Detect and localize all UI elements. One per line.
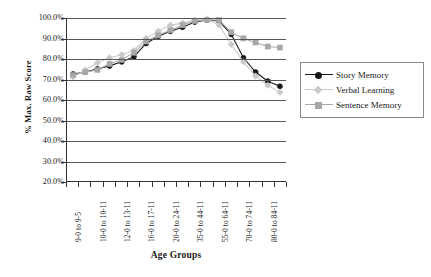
legend-label: Story Memory — [333, 70, 389, 80]
x-tick-mark — [152, 182, 153, 187]
y-tick-mark — [61, 121, 66, 122]
legend-label: Verbal Learning — [333, 85, 394, 95]
data-point-marker — [83, 69, 88, 74]
x-tick-mark — [176, 182, 177, 187]
data-point-marker — [253, 40, 258, 45]
data-point-marker — [265, 44, 270, 49]
gridline — [67, 18, 286, 19]
x-tick-mark — [78, 182, 79, 187]
legend-item[interactable]: Sentence Memory — [305, 97, 418, 112]
data-point-marker — [168, 28, 173, 33]
x-tick-mark — [225, 182, 226, 187]
y-tick-mark — [61, 39, 66, 40]
x-tick-mark — [286, 182, 287, 187]
x-tick-mark — [200, 182, 201, 187]
gridline — [67, 59, 286, 60]
x-tick-label: 9-0 to 9-5 — [75, 212, 83, 242]
x-tick-label: 20-0 to 24-11 — [173, 201, 181, 242]
gridline — [67, 162, 286, 163]
data-point-marker — [192, 18, 197, 23]
data-point-marker — [156, 33, 161, 38]
x-tick-label: 10-0 to 10-11 — [100, 201, 108, 242]
data-point-marker — [70, 72, 75, 77]
legend-marker-icon — [305, 69, 333, 80]
data-point-marker — [277, 89, 283, 95]
y-tick-mark — [61, 100, 66, 101]
chart-figure: % Max. Raw Score 100.0%90.0%80.0%70.0%60… — [0, 0, 431, 277]
data-point-marker — [143, 39, 148, 44]
y-tick-mark — [61, 182, 66, 183]
gridline — [67, 100, 286, 101]
x-tick-label: 12-0 to 13-11 — [124, 201, 132, 242]
x-tick-mark — [188, 182, 189, 187]
data-point-marker — [131, 50, 136, 55]
x-tick-mark — [164, 182, 165, 187]
x-tick-label: 80-0 to 84-11 — [271, 201, 279, 242]
x-tick-label: 55-0 to 64-11 — [222, 201, 230, 242]
y-axis-tick-labels: 100.0%90.0%80.0%70.0%60.0%50.0%40.0%30.0… — [18, 0, 64, 200]
data-point-marker — [228, 41, 234, 47]
y-tick-mark — [61, 80, 66, 81]
x-tick-mark — [127, 182, 128, 187]
x-axis-title: Age Groups — [66, 250, 286, 260]
series-line — [73, 20, 280, 75]
gridline — [67, 141, 286, 142]
x-tick-mark — [237, 182, 238, 187]
x-tick-label: 16-0 to 17-11 — [148, 201, 156, 242]
gridline — [67, 80, 286, 81]
series-line — [73, 19, 280, 92]
x-tick-label: 70-0 to 74-11 — [246, 201, 254, 242]
data-point-marker — [94, 60, 100, 66]
chart-legend: Story MemoryVerbal LearningSentence Memo… — [300, 62, 424, 118]
x-tick-mark — [262, 182, 263, 187]
legend-item[interactable]: Story Memory — [305, 67, 418, 82]
x-tick-mark — [213, 182, 214, 187]
gridline — [67, 39, 286, 40]
y-tick-mark — [61, 141, 66, 142]
data-point-marker — [95, 67, 100, 72]
x-tick-mark — [90, 182, 91, 187]
x-tick-mark — [66, 182, 67, 187]
x-tick-mark — [115, 182, 116, 187]
legend-marker-icon — [305, 84, 333, 95]
x-tick-mark — [103, 182, 104, 187]
x-axis-tick-labels: 9-0 to 9-510-0 to 10-1112-0 to 13-1116-0… — [66, 188, 286, 244]
legend-label: Sentence Memory — [333, 100, 402, 110]
data-point-marker — [277, 84, 282, 89]
data-point-marker — [277, 45, 282, 50]
data-point-marker — [180, 23, 185, 28]
series-line — [73, 20, 280, 86]
x-tick-label: 35-0 to 44-11 — [197, 201, 205, 242]
x-tick-mark — [249, 182, 250, 187]
legend-marker-icon — [305, 99, 333, 110]
gridline — [67, 121, 286, 122]
y-tick-mark — [61, 162, 66, 163]
x-tick-mark — [274, 182, 275, 187]
legend-item[interactable]: Verbal Learning — [305, 82, 418, 97]
data-point-marker — [107, 61, 112, 66]
y-tick-mark — [61, 18, 66, 19]
x-tick-mark — [139, 182, 140, 187]
plot-area — [66, 18, 286, 182]
y-tick-mark — [61, 59, 66, 60]
data-point-marker — [229, 30, 234, 35]
